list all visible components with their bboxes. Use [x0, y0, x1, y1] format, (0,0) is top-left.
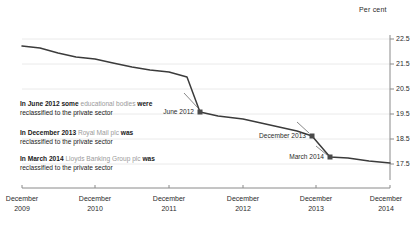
- x-tick-label-december-2014: December 2014: [364, 194, 408, 213]
- x-tick-year: 2011: [147, 204, 191, 214]
- x-tick-month: December: [0, 194, 44, 204]
- x-tick-month: December: [73, 194, 117, 204]
- marker-label-december-2013: December 2013: [242, 132, 306, 139]
- annotation-march-2014-line1-entity: Lloyds Banking Group plc: [65, 155, 140, 162]
- y-tick-label-18-5: 18.5: [396, 135, 410, 142]
- annotation-march-2014-line1-post: was: [141, 155, 155, 162]
- annotation-december-2013-line1-entity: Royal Mail plc: [78, 129, 119, 136]
- y-tick-label-17-5: 17.5: [396, 160, 410, 167]
- x-tick-year: 2010: [73, 204, 117, 214]
- y-tick-label-21-5: 21.5: [396, 60, 410, 67]
- y-axis-unit-label: Per cent: [359, 6, 387, 13]
- x-tick-label-december-2009: December 2009: [0, 194, 44, 213]
- annotation-december-2013-line1-pre: In December 2013: [20, 129, 78, 136]
- x-tick-label-december-2013: December 2013: [294, 194, 338, 213]
- x-tick-year: 2012: [221, 204, 265, 214]
- x-tick-year: 2014: [364, 204, 408, 214]
- y-tick-label-22-5: 22.5: [396, 35, 410, 42]
- annotation-june-2012-line1-post: were: [135, 100, 152, 107]
- annotation-december-2013-line1-post: was: [119, 129, 133, 136]
- annotation-june-2012: In June 2012 some educational bodies wer…: [20, 99, 152, 117]
- x-tick-year: 2009: [0, 204, 44, 214]
- annotation-march-2014-line1: In March 2014 Lloyds Banking Group plc w…: [20, 154, 155, 163]
- annotation-december-2013-line1: In December 2013 Royal Mail plc was: [20, 128, 133, 137]
- annotation-march-2014-line1-pre: In March 2014: [20, 155, 65, 162]
- x-tick-year: 2013: [294, 204, 338, 214]
- annotation-december-2013: In December 2013 Royal Mail plc was recl…: [20, 128, 133, 146]
- marker-label-march-2014: March 2014: [270, 153, 324, 160]
- y-tick-label-20-5: 20.5: [396, 85, 410, 92]
- annotation-june-2012-line1-pre: In June 2012 some: [20, 100, 80, 107]
- x-tick-label-december-2011: December 2011: [147, 194, 191, 213]
- x-axis: [22, 185, 390, 188]
- annotation-june-2012-line2: reclassified to the private sector: [20, 108, 152, 117]
- annotation-june-2012-line1-entity: educational bodies: [80, 100, 135, 107]
- annotation-december-2013-line2: reclassified to the private sector: [20, 137, 133, 146]
- x-tick-label-december-2010: December 2010: [73, 194, 117, 213]
- x-tick-label-december-2012: December 2012: [221, 194, 265, 213]
- x-tick-month: December: [147, 194, 191, 204]
- annotation-march-2014: In March 2014 Lloyds Banking Group plc w…: [20, 154, 155, 172]
- annotation-march-2014-line2: reclassified to the private sector: [20, 163, 155, 172]
- annotation-june-2012-line1: In June 2012 some educational bodies wer…: [20, 99, 152, 108]
- y-axis: [390, 35, 394, 180]
- y-tick-label-19-5: 19.5: [396, 110, 410, 117]
- annotation-leader-lines: [184, 93, 327, 155]
- x-tick-month: December: [221, 194, 265, 204]
- x-tick-month: December: [294, 194, 338, 204]
- x-tick-month: December: [364, 194, 408, 204]
